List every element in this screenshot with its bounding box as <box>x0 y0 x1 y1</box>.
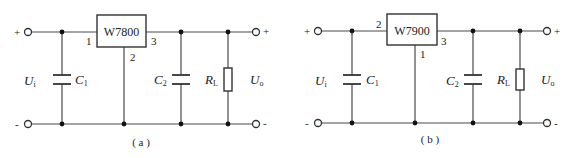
c1-label: C1 <box>75 72 88 88</box>
input-minus-sign: - <box>15 118 19 130</box>
pin-output-label: 3 <box>441 35 447 47</box>
regulator-label: W7900 <box>394 24 429 38</box>
c2-label: C2 <box>154 72 167 88</box>
regulator-circuits-figure: W7800 1 2 3 + - + - Ui C1 C2 RL Uo ( a ) <box>0 0 573 158</box>
input-minus-sign: - <box>305 117 309 129</box>
junction-dot <box>471 121 476 126</box>
load-resistor-label: RL <box>496 72 510 88</box>
load-resistor-label: RL <box>204 72 218 88</box>
junction-dot <box>350 29 355 34</box>
caption-a: ( a ) <box>132 136 150 149</box>
output-plus-terminal <box>253 29 260 36</box>
junction-dot <box>179 122 184 127</box>
input-plus-terminal <box>315 28 322 35</box>
input-plus-sign: + <box>14 26 20 38</box>
c1-label: C1 <box>366 72 379 88</box>
output-minus-terminal <box>253 121 260 128</box>
junction-dot <box>413 121 418 126</box>
junction-dot <box>518 29 523 34</box>
junction-dot <box>122 122 127 127</box>
pin-input-label: 1 <box>86 35 92 47</box>
c2-label: C2 <box>446 73 459 89</box>
input-minus-terminal <box>25 121 32 128</box>
output-minus-sign: - <box>263 117 267 129</box>
load-resistor-symbol <box>224 68 232 91</box>
input-plus-terminal <box>25 29 32 36</box>
caption-b: ( b ) <box>421 133 440 146</box>
pin-ground-label: 2 <box>130 51 136 63</box>
output-voltage-label: Uo <box>541 72 554 88</box>
pin-input-label: 2 <box>376 18 382 30</box>
junction-dot <box>60 30 65 35</box>
junction-dot <box>226 122 231 127</box>
regulator-label: W7800 <box>104 25 139 39</box>
junction-dot <box>60 122 65 127</box>
output-minus-sign: - <box>554 117 558 129</box>
output-plus-terminal <box>544 28 551 35</box>
output-minus-terminal <box>544 120 551 127</box>
junction-dot <box>471 29 476 34</box>
input-plus-sign: + <box>304 25 310 37</box>
output-plus-sign: + <box>263 25 269 37</box>
output-plus-sign: + <box>554 25 560 37</box>
input-voltage-label: Ui <box>315 73 327 89</box>
junction-dot <box>179 30 184 35</box>
pin-ground-label: 1 <box>420 48 426 60</box>
junction-dot <box>518 121 523 126</box>
circuit-a: W7800 1 2 3 + - + - Ui C1 C2 RL Uo ( a ) <box>14 15 269 149</box>
output-voltage-label: Uo <box>250 72 263 88</box>
junction-dot <box>226 30 231 35</box>
input-minus-terminal <box>315 120 322 127</box>
load-resistor-symbol <box>516 69 524 90</box>
input-voltage-label: Ui <box>24 73 36 89</box>
circuit-b: W7900 2 1 3 + - + - Ui C1 C2 RL Uo ( b ) <box>304 14 560 146</box>
pin-output-label: 3 <box>151 35 157 47</box>
junction-dot <box>350 121 355 126</box>
